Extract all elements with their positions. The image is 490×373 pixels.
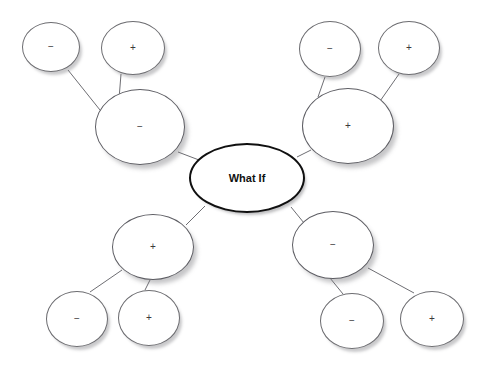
leaf-top-right-1[interactable]: −	[299, 21, 361, 77]
diagram-canvas: −+−+−+−+−++−What If	[0, 0, 490, 373]
connector-line	[68, 70, 104, 115]
leaf-top-left-1-label: −	[48, 42, 54, 52]
leaf-bottom-left-1-label: −	[74, 314, 80, 324]
branch-bottom-left[interactable]: +	[112, 214, 194, 280]
connector-line	[297, 150, 311, 157]
connector-line	[178, 152, 199, 160]
branch-top-right-label: +	[345, 121, 351, 131]
branch-bottom-left-label: +	[150, 242, 156, 252]
leaf-top-left-2-label: +	[130, 43, 136, 53]
leaf-bottom-left-1[interactable]: −	[46, 291, 108, 347]
center-node-what-if-label: What If	[229, 173, 266, 184]
branch-top-right[interactable]: +	[302, 88, 394, 164]
leaf-top-left-1[interactable]: −	[22, 22, 80, 72]
connector-line	[186, 206, 205, 225]
branch-top-left-label: −	[137, 122, 143, 132]
center-node-what-if[interactable]: What If	[189, 143, 305, 213]
connector-line	[90, 270, 122, 292]
leaf-top-right-1-label: −	[327, 44, 333, 54]
leaf-bottom-left-2[interactable]: +	[118, 290, 180, 346]
leaf-bottom-right-1-label: −	[349, 316, 355, 326]
leaf-bottom-right-1[interactable]: −	[320, 293, 384, 349]
branch-top-left[interactable]: −	[95, 89, 185, 165]
branch-bottom-right[interactable]: −	[292, 211, 374, 279]
connector-line	[330, 278, 343, 294]
leaf-bottom-left-2-label: +	[146, 313, 152, 323]
leaf-top-left-2[interactable]: +	[101, 21, 165, 75]
branch-bottom-right-label: −	[330, 240, 336, 250]
leaf-top-right-2-label: +	[406, 43, 412, 53]
connector-line	[368, 268, 414, 293]
connector-line	[291, 207, 304, 223]
connector-line	[145, 280, 150, 290]
leaf-bottom-right-2-label: +	[429, 314, 435, 324]
leaf-bottom-right-2[interactable]: +	[400, 291, 464, 347]
leaf-top-right-2[interactable]: +	[378, 21, 440, 75]
